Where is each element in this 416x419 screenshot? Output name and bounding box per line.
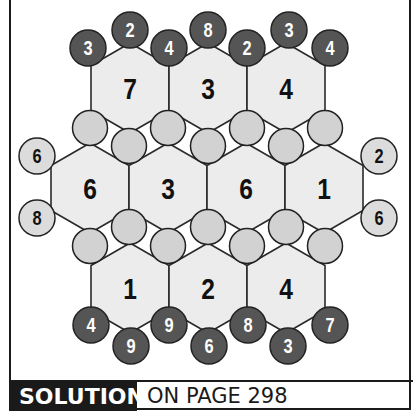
hex-value: 3	[161, 171, 175, 205]
gap-circle[interactable]	[269, 210, 304, 245]
gap-circle[interactable]	[73, 111, 108, 146]
puzzle-board: 7346361124 324823449968376826	[0, 0, 416, 380]
top-clue: 2	[229, 30, 265, 66]
hex-value: 2	[201, 271, 215, 305]
empty-circle-slot[interactable]	[191, 210, 226, 245]
gap-circle[interactable]	[230, 229, 265, 264]
bottom-clue: 8	[230, 307, 266, 343]
right-clue: 2	[361, 138, 397, 174]
empty-circle-slot[interactable]	[269, 210, 304, 245]
gap-circle[interactable]	[73, 229, 108, 264]
clue-value: 9	[164, 314, 173, 337]
hex-value: 1	[123, 271, 137, 305]
right-clue: 6	[361, 200, 397, 236]
gap-circle[interactable]	[191, 210, 226, 245]
left-clue: 8	[19, 200, 55, 236]
top-clue: 2	[112, 12, 148, 48]
gap-circle[interactable]	[151, 111, 186, 146]
gap-circle[interactable]	[269, 129, 304, 164]
empty-circle-slot[interactable]	[308, 111, 343, 146]
bottom-clue: 6	[191, 328, 227, 364]
bottom-clue: 9	[151, 307, 187, 343]
empty-circle-slot[interactable]	[112, 210, 147, 245]
clue-value: 2	[125, 19, 134, 42]
clue-value: 4	[164, 37, 174, 60]
gap-circle[interactable]	[230, 111, 265, 146]
empty-circle-slot[interactable]	[269, 129, 304, 164]
empty-circle-slot[interactable]	[151, 111, 186, 146]
empty-circle-slot[interactable]	[308, 229, 343, 264]
bottom-clue: 3	[270, 328, 306, 364]
clue-value: 2	[242, 37, 251, 60]
clue-value: 6	[374, 207, 383, 230]
left-clue: 6	[19, 138, 55, 174]
empty-circle-slot[interactable]	[230, 229, 265, 264]
empty-circle-slot[interactable]	[73, 111, 108, 146]
gap-circle[interactable]	[151, 229, 186, 264]
gap-circle[interactable]	[191, 129, 226, 164]
empty-circle-slot[interactable]	[112, 129, 147, 164]
clue-value: 6	[32, 145, 41, 168]
bottom-clue: 4	[73, 307, 109, 343]
empty-circle-slot[interactable]	[191, 129, 226, 164]
gap-circle[interactable]	[112, 210, 147, 245]
clue-value: 8	[243, 314, 252, 337]
clue-value: 7	[325, 314, 334, 337]
hex-value: 7	[123, 71, 137, 105]
top-clue: 3	[271, 12, 307, 48]
hex-value: 4	[279, 71, 293, 105]
top-clue: 4	[151, 30, 187, 66]
clue-value: 6	[204, 335, 213, 358]
clue-value: 9	[126, 335, 135, 358]
clue-value: 3	[283, 335, 292, 358]
hex-value: 1	[317, 171, 331, 205]
clue-value: 4	[86, 314, 96, 337]
clue-value: 2	[374, 145, 383, 168]
bottom-clue: 7	[312, 307, 348, 343]
top-clue: 8	[190, 12, 226, 48]
gap-circle[interactable]	[308, 111, 343, 146]
hex-value: 6	[239, 171, 253, 205]
clue-value: 8	[203, 19, 212, 42]
top-clue: 4	[312, 30, 348, 66]
top-clue: 3	[70, 30, 106, 66]
clue-value: 3	[83, 37, 92, 60]
bottom-clue: 9	[113, 328, 149, 364]
hex-value: 4	[279, 271, 293, 305]
solution-label: SOLUTION	[9, 382, 137, 411]
empty-circle-slot[interactable]	[73, 229, 108, 264]
empty-circle-slot[interactable]	[230, 111, 265, 146]
clue-value: 4	[325, 37, 335, 60]
clue-value: 8	[32, 207, 41, 230]
solution-page-reference: ON PAGE 298	[137, 382, 288, 411]
hex-value: 3	[201, 71, 215, 105]
hex-grid: 7346361124	[51, 43, 363, 333]
empty-circle-slot[interactable]	[151, 229, 186, 264]
gap-circle[interactable]	[308, 229, 343, 264]
hex-value: 6	[83, 171, 97, 205]
solution-bar: SOLUTION ON PAGE 298	[9, 380, 413, 411]
gap-circle[interactable]	[112, 129, 147, 164]
clue-value: 3	[284, 19, 293, 42]
